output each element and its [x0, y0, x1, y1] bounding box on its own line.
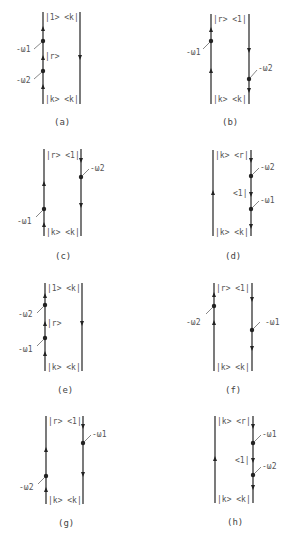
panel-caption: (e) — [57, 385, 73, 395]
top-state-label: |r> <1| — [213, 15, 247, 24]
panel-caption: (h) — [227, 517, 243, 527]
leader-line — [254, 435, 261, 442]
frequency-label: -ω1 — [92, 430, 107, 439]
frequency-label: -ω2 — [18, 310, 33, 319]
arrow-up-icon — [42, 222, 46, 227]
arrow-down-icon — [251, 424, 255, 429]
bottom-state-label: |k> <k| — [216, 363, 250, 372]
arrow-down-icon — [79, 203, 83, 208]
panel-caption: (c) — [55, 251, 71, 261]
arrow-down-icon — [247, 88, 251, 93]
bottom-state-label: |k> <k| — [217, 495, 251, 504]
panel-a: |1> <k| |k> <k| |r> -ω1 -ω2 (a) — [16, 12, 82, 127]
panel-h: |k> <r| |k> <k| <1| -ω1 -ω2 (h) — [213, 416, 277, 527]
bottom-state-label: |k> <k| — [45, 95, 79, 104]
bottom-state-label: |k> <k| — [47, 363, 81, 372]
arrow-up-icon — [211, 190, 215, 195]
bottom-state-label: |k> <k| — [48, 496, 82, 505]
frequency-label: -ω1 — [265, 318, 280, 327]
arrow-down-icon — [251, 458, 255, 463]
top-state-label: |r> <1| — [216, 284, 250, 293]
leader-line — [203, 42, 210, 49]
top-state-label: |1> <k| — [47, 284, 81, 293]
leader-line — [252, 168, 259, 175]
leader-line — [34, 42, 42, 49]
frequency-label: -ω1 — [186, 48, 201, 57]
leader-line — [206, 307, 213, 314]
frequency-label: -ω2 — [19, 483, 34, 492]
panel-b: |r> <1| |k> <k| -ω1 -ω2 (b) — [186, 14, 273, 127]
arrow-up-icon — [212, 320, 216, 325]
arrow-down-icon — [81, 424, 85, 429]
panel-caption: (g) — [58, 518, 74, 528]
frequency-label: -ω1 — [262, 430, 277, 439]
arrow-down-icon — [78, 55, 82, 60]
arrow-up-icon — [43, 293, 47, 298]
leader-line — [252, 201, 259, 208]
arrow-down-icon — [250, 346, 254, 351]
panel-caption: (d) — [225, 251, 241, 261]
frequency-label: -ω2 — [16, 76, 31, 85]
arrow-up-icon — [41, 26, 45, 31]
arrow-up-icon — [41, 84, 45, 89]
frequency-label: -ω2 — [258, 64, 273, 73]
bottom-state-label: |k> <k| — [213, 95, 247, 104]
frequency-label: -ω2 — [260, 163, 275, 172]
arrow-down-icon — [250, 297, 254, 302]
top-state-label: |1> <k| — [45, 13, 79, 22]
frequency-label: -ω1 — [18, 345, 33, 354]
arrow-up-icon — [44, 487, 48, 492]
arrow-up-icon — [42, 181, 46, 186]
arrow-up-icon — [43, 351, 47, 356]
leader-line — [37, 339, 44, 346]
top-state-label: |k> <r| — [215, 151, 249, 160]
frequency-label: -ω2 — [186, 318, 201, 327]
frequency-label: -ω1 — [260, 196, 275, 205]
leader-line — [250, 70, 257, 78]
panel-d: |k> <r| |k> <k| <1| -ω2 -ω1 (d) — [211, 150, 275, 261]
arrow-down-icon — [249, 192, 253, 197]
intermediate-state-label: <1| — [233, 189, 247, 198]
leader-line — [254, 467, 261, 474]
panel-g: |r> <1| |k> <k| -ω2 -ω1 (g) — [19, 416, 107, 528]
arrow-up-icon — [44, 447, 48, 452]
top-state-label: |r> <1| — [46, 151, 80, 160]
leader-line — [82, 169, 89, 176]
arrow-up-icon — [209, 68, 213, 73]
frequency-label: -ω1 — [16, 45, 31, 54]
leader-line — [34, 72, 42, 79]
panel-caption: (a) — [54, 117, 70, 127]
double-sided-feynman-diagrams: |1> <k| |k> <k| |r> -ω1 -ω2 (a) |r> <1| … — [0, 0, 297, 539]
frequency-label: -ω1 — [17, 217, 32, 226]
arrow-down-icon — [247, 48, 251, 53]
arrow-down-icon — [249, 224, 253, 229]
arrow-down-icon — [251, 485, 255, 490]
bottom-state-label: |k> <k| — [215, 228, 249, 237]
leader-line — [84, 435, 91, 442]
panel-e: |1> <k| |k> <k| |r> -ω2 -ω1 (e) — [18, 283, 84, 395]
panel-f: |r> <1| |k> <k| -ω2 -ω1 (f) — [186, 283, 280, 395]
arrow-down-icon — [81, 472, 85, 477]
panel-caption: (b) — [222, 117, 238, 127]
bottom-state-label: |k> <k| — [46, 228, 80, 237]
leader-line — [253, 322, 260, 329]
intermediate-state-label: |r> — [47, 319, 62, 328]
leader-line — [36, 210, 43, 217]
arrow-up-icon — [213, 456, 217, 461]
leader-line — [38, 477, 45, 484]
leader-line — [37, 306, 44, 313]
arrow-up-icon — [209, 27, 213, 32]
frequency-label: -ω2 — [90, 164, 105, 173]
arrow-down-icon — [249, 158, 253, 163]
arrow-down-icon — [79, 158, 83, 163]
frequency-label: -ω2 — [262, 462, 277, 471]
top-state-label: |k> <r| — [217, 417, 251, 426]
arrow-down-icon — [80, 321, 84, 326]
intermediate-state-label: <1| — [235, 456, 249, 465]
panel-c: |r> <1| |k> <k| -ω1 -ω2 (c) — [17, 149, 105, 261]
intermediate-state-label: |r> — [45, 52, 60, 61]
top-state-label: |r> <1| — [48, 417, 82, 426]
panel-caption: (f) — [225, 385, 241, 395]
